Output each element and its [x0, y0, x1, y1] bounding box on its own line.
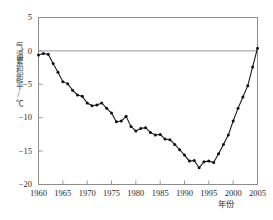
data-point	[76, 93, 79, 96]
chart-canvas	[0, 0, 273, 220]
data-point	[246, 84, 249, 87]
data-point	[86, 102, 89, 105]
y-tick-label-5: −20	[6, 180, 32, 189]
data-point	[173, 143, 176, 146]
data-point	[95, 104, 98, 107]
data-point	[198, 166, 201, 169]
y-tick-label-4: −15	[6, 147, 32, 156]
data-point	[159, 133, 162, 136]
data-point	[251, 65, 254, 68]
data-point	[164, 138, 167, 141]
data-point	[71, 89, 74, 92]
data-point	[237, 107, 240, 110]
data-point	[100, 102, 103, 105]
data-point	[52, 62, 55, 65]
data-point	[42, 52, 45, 55]
y-tick-label-3: −10	[6, 113, 32, 122]
data-point	[61, 80, 64, 83]
data-series-line	[39, 48, 258, 168]
data-point	[222, 143, 225, 146]
data-point	[183, 154, 186, 157]
data-point	[115, 120, 118, 123]
y-axis-title: 气温累积距平/℃	[10, 42, 22, 107]
y-tick-label-0: 5	[6, 13, 32, 22]
data-point	[241, 95, 244, 98]
data-point	[202, 160, 205, 163]
x-axis-title: 年份	[218, 200, 234, 209]
data-point	[134, 130, 137, 133]
data-point	[47, 53, 50, 56]
data-point	[125, 115, 128, 118]
data-point	[129, 125, 132, 128]
x-tick-label-2005: 2005	[243, 189, 273, 198]
data-point	[232, 120, 235, 123]
data-point	[139, 127, 142, 130]
data-point	[217, 152, 220, 155]
data-point	[91, 104, 94, 107]
data-point	[56, 71, 59, 74]
data-point	[66, 82, 69, 85]
data-point	[207, 160, 210, 163]
data-point	[168, 138, 171, 141]
data-point	[149, 131, 152, 134]
data-point	[188, 160, 191, 163]
data-point	[193, 159, 196, 162]
data-point-markers	[37, 47, 259, 170]
data-point	[110, 112, 113, 115]
tick-marks	[39, 51, 258, 185]
data-point	[144, 126, 147, 129]
data-point	[154, 134, 157, 137]
data-point	[256, 47, 259, 50]
data-point	[212, 161, 215, 164]
data-point	[178, 148, 181, 151]
data-point	[120, 120, 123, 123]
data-point	[37, 53, 40, 56]
data-point	[227, 134, 230, 137]
data-point	[105, 107, 108, 110]
data-point	[81, 95, 84, 98]
figure: 50−5−10−15−20 19601965197019751980198519…	[0, 0, 273, 220]
